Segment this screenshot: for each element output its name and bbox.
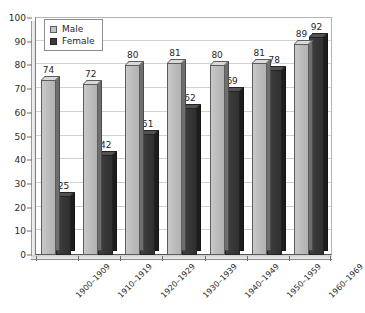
- x-axis-tick-label: 1940–1949: [243, 262, 281, 300]
- y-axis-tick-mark: [27, 231, 32, 232]
- y-axis-tick-label: 30: [15, 179, 26, 188]
- x-axis-tick-mark: [205, 256, 206, 261]
- bar-side-face: [113, 151, 117, 251]
- bar-side-face: [282, 66, 286, 251]
- y-axis-tick-label: 0: [20, 251, 26, 260]
- bar-male[interactable]: 80: [210, 65, 225, 255]
- y-axis-tick-label: 70: [15, 85, 26, 94]
- x-axis-tick-label: 1920–1929: [159, 262, 197, 300]
- bar-male[interactable]: 80: [125, 65, 140, 255]
- x-axis-tick-mark: [120, 256, 121, 261]
- x-axis-tick-mark: [36, 256, 37, 261]
- bar-side-face: [324, 33, 328, 251]
- bar-group: 8162: [162, 18, 204, 255]
- y-axis-tick-label: 100: [9, 14, 26, 23]
- legend-label-male: Male: [62, 24, 83, 34]
- bar-value-label: 80: [211, 51, 222, 60]
- y-axis-tick-mark: [27, 112, 32, 113]
- y-axis-tick-mark: [27, 41, 32, 42]
- y-axis-tick-mark: [27, 183, 32, 184]
- y-axis-tick-mark: [27, 207, 32, 208]
- bar-front-face: [83, 84, 98, 255]
- bar-side-face: [197, 104, 201, 251]
- x-axis-tick-mark: [289, 256, 290, 261]
- legend-label-female: Female: [62, 36, 95, 46]
- male-swatch-icon: [50, 26, 57, 33]
- bar-side-face: [309, 40, 313, 251]
- legend: Male Female: [44, 19, 103, 51]
- x-axis-tick-mark: [78, 256, 79, 261]
- bar-group: 8992: [289, 18, 331, 255]
- bar-group: 7425: [36, 18, 78, 255]
- bar-side-face: [56, 76, 60, 251]
- bar-value-label: 89: [296, 30, 307, 39]
- bar-front-face: [125, 65, 140, 255]
- y-axis-tick-mark: [27, 18, 32, 19]
- x-axis-tick-mark: [247, 256, 248, 261]
- bar-male[interactable]: 89: [294, 44, 309, 255]
- bar-value-label: 74: [43, 66, 54, 75]
- y-axis-tick-label: 80: [15, 61, 26, 70]
- bar-front-face: [252, 63, 267, 255]
- legend-item-female: Female: [50, 35, 95, 47]
- y-axis-tick-label: 60: [15, 108, 26, 117]
- x-axis-tick-label: 1950–1959: [285, 262, 323, 300]
- bar-front-face: [294, 44, 309, 255]
- bar-value-label: 80: [127, 51, 138, 60]
- bar-value-label: 92: [311, 23, 322, 32]
- y-axis-tick-label: 20: [15, 203, 26, 212]
- bar-front-face: [167, 63, 182, 255]
- x-axis-tick-label: 1930–1939: [201, 262, 239, 300]
- y-axis-tick-label: 40: [15, 156, 26, 165]
- bar-side-face: [267, 59, 271, 251]
- bar-male[interactable]: 81: [167, 63, 182, 255]
- bar-front-face: [210, 65, 225, 255]
- bar-side-face: [225, 61, 229, 251]
- bar-male[interactable]: 81: [252, 63, 267, 255]
- female-swatch-icon: [50, 38, 57, 45]
- bar-side-face: [155, 130, 159, 251]
- bar-side-face: [182, 59, 186, 251]
- bars-container: 7425724280518162806981788992: [36, 18, 331, 255]
- x-axis-labels: 1900–19091910–19191920–19291930–19391940…: [36, 262, 331, 312]
- y-axis-tick-label: 10: [15, 227, 26, 236]
- bar-side-face: [140, 61, 144, 251]
- y-axis-tick-mark: [27, 160, 32, 161]
- y-axis-tick-mark: [27, 255, 32, 256]
- x-axis-tick-mark: [162, 256, 163, 261]
- y-axis-tick-mark: [27, 89, 32, 90]
- bar-side-face: [240, 87, 244, 251]
- bar-group: 8178: [247, 18, 289, 255]
- x-axis-tick-label: 1910–1919: [117, 262, 155, 300]
- bar-male[interactable]: 74: [41, 80, 56, 255]
- bar-group: 8069: [205, 18, 247, 255]
- y-axis: 0102030405060708090100: [0, 0, 35, 256]
- x-axis-tick-label: 1900–1909: [74, 262, 112, 300]
- bar-value-label: 72: [85, 70, 96, 79]
- bar-front-face: [41, 80, 56, 255]
- bar-value-label: 81: [254, 49, 265, 58]
- legend-item-male: Male: [50, 23, 95, 35]
- x-axis-tick-label: 1960–1969: [327, 262, 365, 300]
- y-axis-tick-label: 90: [15, 37, 26, 46]
- bar-value-label: 81: [169, 49, 180, 58]
- y-axis-tick-mark: [27, 136, 32, 137]
- x-axis-tick-mark: [330, 256, 331, 261]
- bar-male[interactable]: 72: [83, 84, 98, 255]
- bar-group: 8051: [120, 18, 162, 255]
- bar-side-face: [98, 80, 102, 251]
- y-axis-tick-label: 50: [15, 132, 26, 141]
- bar-side-face: [71, 192, 75, 251]
- bar-group: 7242: [78, 18, 120, 255]
- y-axis-tick-mark: [27, 65, 32, 66]
